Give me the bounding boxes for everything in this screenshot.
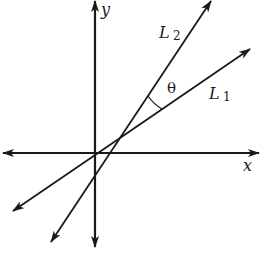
line-l2 [51,1,211,242]
label-l1-subscript: 1 [223,90,231,104]
angle-theta-label: θ [167,79,176,97]
label-l2: L [158,23,170,42]
line-l1 [13,49,250,211]
y-axis-label: y [100,0,111,19]
coordinate-diagram: y x L 2 θ L 1 [0,0,263,257]
x-axis-label: x [243,156,252,175]
angle-arc [148,96,162,109]
label-l2-subscript: 2 [173,29,181,43]
label-l1: L [208,84,220,103]
